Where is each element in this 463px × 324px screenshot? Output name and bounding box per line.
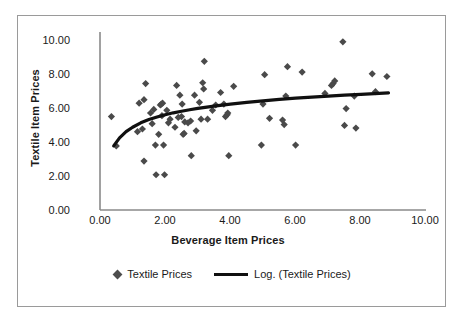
data-point [225, 152, 232, 159]
legend-entry-textile-prices: Textile Prices [114, 268, 192, 280]
legend-entry-log-textile-prices: Log. (Textile Prices) [214, 268, 351, 280]
data-point [173, 82, 180, 89]
data-point [201, 58, 208, 65]
scatter-plot-canvas [18, 16, 447, 308]
data-point [292, 141, 299, 148]
data-point [171, 124, 178, 131]
data-point [152, 171, 159, 178]
data-point [217, 89, 224, 96]
legend-label-textile-prices: Textile Prices [127, 268, 192, 280]
data-point [176, 92, 183, 99]
data-point [299, 68, 306, 75]
data-point [383, 73, 390, 80]
data-point [179, 100, 186, 107]
data-point [161, 171, 168, 178]
data-point [369, 70, 376, 77]
data-point [193, 127, 200, 134]
data-point [155, 131, 162, 138]
data-point [343, 105, 350, 112]
data-point [191, 92, 198, 99]
data-point [200, 85, 207, 92]
chart-legend: Textile Prices Log. (Textile Prices) [18, 268, 447, 280]
logarithmic-trendline [114, 93, 389, 146]
data-point [196, 99, 203, 106]
data-point [341, 122, 348, 129]
data-point [199, 79, 206, 86]
data-point [149, 120, 156, 127]
data-point [266, 115, 273, 122]
legend-label-log-textile-prices: Log. (Textile Prices) [254, 268, 351, 280]
diamond-marker-icon [113, 269, 123, 279]
data-point [188, 152, 195, 159]
data-points-group [108, 38, 391, 178]
data-point [230, 83, 237, 90]
data-point [204, 116, 211, 123]
data-point [352, 125, 359, 132]
data-point [284, 63, 291, 70]
data-point [339, 38, 346, 45]
line-marker-icon [214, 273, 248, 276]
data-point [152, 141, 159, 148]
data-point [140, 157, 147, 164]
data-point [261, 71, 268, 78]
plot-region: Textile Item Prices 10.00 8.00 6.00 4.00… [18, 16, 447, 308]
data-point [160, 141, 167, 148]
chart-container: Textile Item Prices 10.00 8.00 6.00 4.00… [17, 15, 446, 307]
data-point [258, 141, 265, 148]
data-point [197, 116, 204, 123]
data-point [142, 80, 149, 87]
data-point [108, 113, 115, 120]
